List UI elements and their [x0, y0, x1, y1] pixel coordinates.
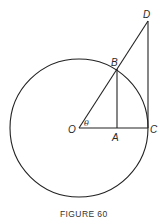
label-O: O: [68, 124, 76, 135]
label-theta: θ: [84, 119, 89, 128]
figure-diagram: O θ A C B D FIGURE 60: [0, 0, 165, 223]
label-D: D: [143, 9, 150, 20]
segment-OD: [79, 21, 148, 128]
label-A: A: [111, 132, 119, 143]
label-C: C: [150, 124, 158, 135]
label-B: B: [111, 57, 118, 68]
figure-caption: FIGURE 60: [60, 209, 108, 219]
